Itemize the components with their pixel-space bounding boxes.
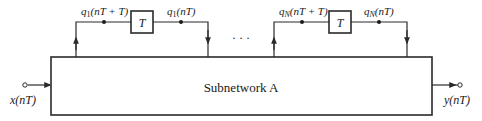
input-terminal: x(nT): [9, 83, 50, 107]
delay-loop-1: T q1(nT + T) q1(nT): [76, 5, 208, 57]
delay-loop-n: T qN(nT + T) qN(nT): [274, 5, 407, 57]
loop1-in-label: q1(nT + T): [81, 5, 129, 19]
ellipsis: · · ·: [232, 31, 250, 45]
loopn-out-label: qN(nT): [364, 5, 394, 19]
node-dot-icon: [300, 20, 304, 24]
loop1-out-label: q1(nT): [167, 5, 196, 19]
output-label: y(nT): [443, 93, 470, 107]
subnetwork-a-label: Subnetwork A: [204, 80, 279, 95]
state-space-diagram: Subnetwork A x(nT) y(nT) T q1(nT + T) q1…: [0, 0, 482, 121]
subnetwork-a-block: Subnetwork A: [51, 57, 432, 115]
node-dot-icon: [377, 20, 381, 24]
node-dot-icon: [179, 20, 183, 24]
node-dot-icon: [102, 20, 106, 24]
input-label: x(nT): [9, 93, 36, 107]
output-terminal: y(nT): [432, 83, 470, 107]
loopn-in-label: qN(nT + T): [279, 5, 328, 19]
